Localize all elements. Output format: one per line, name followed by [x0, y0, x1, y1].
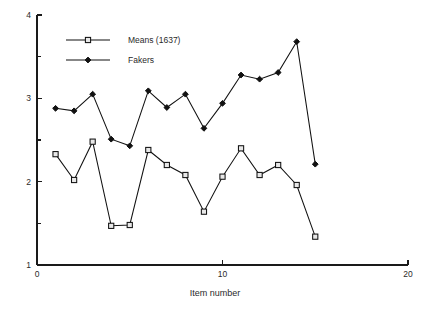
- legend-label-1: Fakers: [128, 55, 154, 65]
- x-axis-tick-labels: 01020: [35, 269, 413, 279]
- y-tick-label-2: 2: [26, 177, 31, 187]
- data-point: [109, 223, 114, 228]
- data-point: [108, 136, 114, 142]
- data-point: [127, 143, 133, 149]
- data-point: [53, 152, 58, 157]
- data-point: [294, 39, 300, 45]
- x-axis-title: Item number: [190, 288, 241, 298]
- y-tick-label-3: 3: [26, 93, 31, 103]
- x-tick-label-0: 0: [35, 269, 40, 279]
- data-point: [201, 209, 206, 214]
- data-point: [127, 222, 132, 227]
- chart-figure: 4321 01020 Means (1637)Fakers Item numbe…: [0, 0, 431, 311]
- data-point: [257, 76, 263, 82]
- data-series-group: [53, 39, 319, 240]
- y-axis-tick-labels: 4321: [26, 10, 31, 270]
- data-point: [312, 161, 318, 167]
- legend-sample-marker-0: [85, 37, 90, 42]
- data-point: [53, 105, 59, 111]
- legend-entry-0: Means (1637): [66, 35, 181, 45]
- legend-sample-marker-1: [85, 57, 91, 63]
- chart-legend: Means (1637)Fakers: [66, 35, 181, 65]
- data-point: [294, 182, 299, 187]
- series-polyline-0: [56, 142, 316, 237]
- data-point: [276, 162, 281, 167]
- legend-entry-1: Fakers: [66, 55, 154, 65]
- data-point: [313, 234, 318, 239]
- x-tick-label-10: 10: [218, 269, 228, 279]
- series-fakers: [53, 39, 319, 167]
- data-point: [72, 177, 77, 182]
- data-point: [164, 162, 169, 167]
- line-chart-canvas: 4321 01020 Means (1637)Fakers Item numbe…: [0, 0, 431, 311]
- series-means-1637: [53, 139, 318, 239]
- data-point: [220, 174, 225, 179]
- data-point: [238, 72, 244, 78]
- data-point: [146, 147, 151, 152]
- y-tick-label-1: 1: [26, 260, 31, 270]
- data-point: [257, 172, 262, 177]
- legend-label-0: Means (1637): [128, 35, 181, 45]
- x-tick-label-20: 20: [403, 269, 413, 279]
- data-point: [90, 139, 95, 144]
- data-point: [275, 70, 281, 76]
- y-tick-label-4: 4: [26, 10, 31, 20]
- data-point: [238, 146, 243, 151]
- data-point: [183, 172, 188, 177]
